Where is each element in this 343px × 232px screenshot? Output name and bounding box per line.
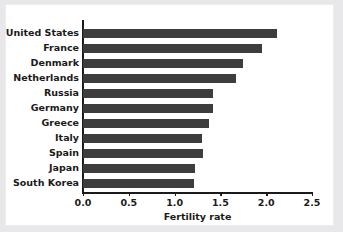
x-axis-tick	[175, 192, 176, 196]
x-axis-tick	[220, 192, 221, 196]
category-label: United States	[6, 25, 79, 40]
x-axis-tick-label: 0.5	[120, 197, 137, 208]
category-label: South Korea	[13, 175, 79, 190]
bar	[83, 74, 236, 83]
bar	[83, 29, 277, 38]
bar	[83, 104, 213, 113]
x-axis-tick-label: 2.5	[304, 197, 321, 208]
x-axis-title: Fertility rate	[82, 211, 313, 222]
bar	[83, 164, 195, 173]
category-label: France	[43, 40, 79, 55]
category-label: Italy	[55, 130, 79, 145]
bar	[83, 59, 243, 68]
bar	[83, 119, 209, 128]
bar	[83, 179, 194, 188]
x-axis-tick	[83, 192, 84, 196]
category-label: Greece	[42, 115, 79, 130]
bar	[83, 149, 203, 158]
category-label: Spain	[49, 145, 79, 160]
category-label: Denmark	[31, 55, 79, 70]
plot-area: United StatesFranceDenmarkNetherlandsRus…	[83, 20, 312, 192]
figure-border-bottom	[0, 225, 343, 232]
x-axis-tick	[266, 192, 267, 196]
bar	[83, 134, 202, 143]
category-label: Japan	[49, 160, 79, 175]
bar	[83, 89, 213, 98]
x-axis-tick-label: 0.0	[75, 197, 92, 208]
x-axis-tick-label: 2.0	[258, 197, 275, 208]
figure-border-right	[333, 0, 343, 232]
x-axis-tick-label: 1.0	[166, 197, 183, 208]
fertility-rate-bar-chart: United StatesFranceDenmarkNetherlandsRus…	[0, 0, 343, 232]
category-label: Russia	[44, 85, 79, 100]
category-label: Netherlands	[13, 70, 79, 85]
x-axis-tick	[312, 192, 313, 196]
x-axis-tick-label: 1.5	[212, 197, 229, 208]
category-label: Germany	[31, 100, 79, 115]
x-axis-tick	[129, 192, 130, 196]
bar	[83, 44, 262, 53]
x-axis-spine	[82, 192, 313, 194]
